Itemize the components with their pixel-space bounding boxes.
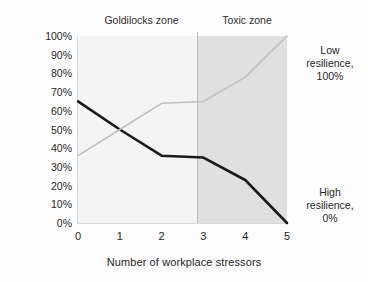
- plot-area: [78, 36, 287, 223]
- y-tick-label: 100%: [32, 31, 72, 42]
- x-tick-label: 5: [275, 230, 299, 242]
- x-tick-label: 1: [108, 230, 132, 242]
- y-tick-label: 0%: [32, 218, 72, 229]
- series-line: [78, 36, 287, 156]
- x-tick-label: 0: [66, 230, 90, 242]
- chart-figure: Percentage of respondents Goldilocks zon…: [0, 0, 368, 282]
- y-tick-label: 50%: [32, 124, 72, 135]
- zone-label-toxic: Toxic zone: [206, 14, 288, 26]
- x-axis-title: Number of workplace stressors: [0, 256, 368, 268]
- y-axis-ticks: 0%10%20%30%40%50%60%70%80%90%100%: [28, 36, 72, 223]
- x-tick-label: 4: [233, 230, 257, 242]
- annotation-line: High: [294, 186, 366, 199]
- y-axis-title: Percentage of respondents: [8, 0, 30, 22]
- x-axis-line: [77, 223, 287, 224]
- annotation-line: resilience,: [294, 57, 366, 70]
- annotation-line: 100%: [294, 70, 366, 83]
- annotation-line: resilience,: [294, 199, 366, 212]
- y-tick-label: 10%: [32, 199, 72, 210]
- y-tick-label: 40%: [32, 143, 72, 154]
- y-tick-label: 20%: [32, 180, 72, 191]
- y-tick-label: 60%: [32, 106, 72, 117]
- y-tick-label: 30%: [32, 162, 72, 173]
- x-tick-label: 3: [191, 230, 215, 242]
- series-lines: [78, 36, 287, 223]
- zone-label-goldilocks: Goldilocks zone: [78, 14, 205, 26]
- y-tick-label: 90%: [32, 49, 72, 60]
- series-line: [78, 101, 287, 223]
- annotation-high-resilience: Highresilience,0%: [294, 186, 366, 225]
- x-tick-label: 2: [150, 230, 174, 242]
- y-tick-label: 70%: [32, 87, 72, 98]
- y-tick-label: 80%: [32, 68, 72, 79]
- annotation-line: 0%: [294, 212, 366, 225]
- annotation-low-resilience: Lowresilience,100%: [294, 44, 366, 83]
- x-axis-ticks: 012345: [78, 230, 287, 246]
- annotation-line: Low: [294, 44, 366, 57]
